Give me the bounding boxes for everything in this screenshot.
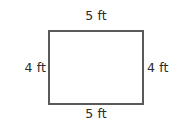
rectangle-shape [48, 30, 144, 105]
bottom-side-length-label: 5 ft [48, 106, 144, 121]
rectangle-dimension-diagram: 5 ft 4 ft 4 ft 5 ft [0, 0, 184, 126]
right-side-length-label: 4 ft [147, 60, 184, 75]
left-side-length-label: 4 ft [4, 60, 46, 75]
top-side-length-label: 5 ft [48, 8, 144, 23]
